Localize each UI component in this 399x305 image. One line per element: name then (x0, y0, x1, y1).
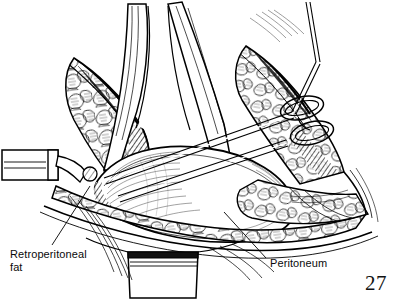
label-retroperitoneal-fat: Retroperitonealfat (10, 248, 87, 273)
label-peritoneum: Peritoneum (270, 257, 327, 270)
label-line-2: fat (10, 261, 23, 273)
figure-container: Retroperitonealfat Peritoneum 27 (0, 0, 399, 305)
page-number: 27 (365, 272, 387, 294)
label-line-1: Retroperitoneal (10, 248, 87, 260)
